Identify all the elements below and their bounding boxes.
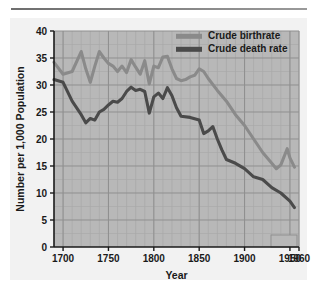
y-tick-label: 5 (41, 215, 47, 226)
line-chart: 0510152025303540 17001750180018501900195… (0, 0, 315, 304)
legend-label: Crude birthrate (208, 30, 281, 41)
x-tick-label: 1900 (233, 253, 256, 264)
x-axis-ticks: 1700175018001850190019501960 (52, 247, 311, 264)
x-tick-label: 1850 (188, 253, 211, 264)
x-axis-title: Year (165, 269, 187, 281)
y-axis-title: Number per 1,000 Population (14, 66, 26, 211)
y-tick-label: 30 (36, 80, 48, 91)
legend-swatch (176, 47, 202, 52)
y-tick-label: 40 (36, 26, 48, 37)
figure-container: 0510152025303540 17001750180018501900195… (0, 0, 315, 304)
y-tick-label: 10 (36, 188, 48, 199)
y-tick-label: 0 (41, 242, 47, 253)
x-tick-label: 1700 (52, 253, 75, 264)
legend-label: Crude death rate (208, 43, 288, 54)
y-tick-label: 35 (36, 53, 48, 64)
legend-swatch (176, 34, 202, 39)
x-tick-label: 1750 (97, 253, 120, 264)
x-tick-label: 1800 (143, 253, 166, 264)
y-tick-label: 25 (36, 107, 48, 118)
x-tick-label: 1960 (288, 253, 311, 264)
y-tick-label: 20 (36, 134, 48, 145)
y-axis-ticks: 0510152025303540 (36, 26, 54, 253)
corner-notch-marker (271, 235, 297, 247)
y-tick-label: 15 (36, 161, 48, 172)
